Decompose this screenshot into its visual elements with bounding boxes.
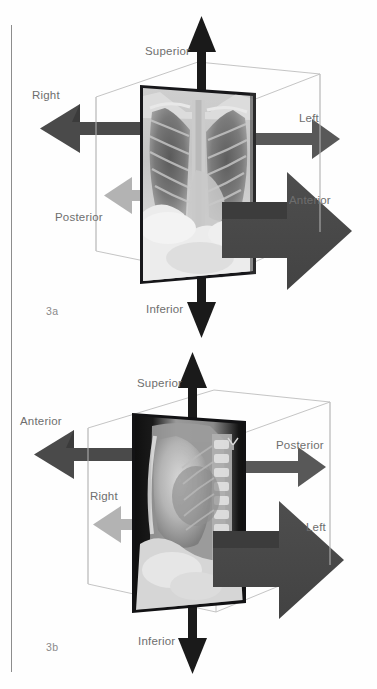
arrow-left-3a	[256, 119, 340, 159]
figure-number-3a: 3a	[46, 305, 58, 317]
label-posterior-3a: Posterior	[55, 211, 103, 223]
label-left-3a: Left	[299, 112, 319, 124]
label-right-3b: Right	[90, 490, 118, 502]
label-inferior-3b: Inferior	[138, 635, 175, 647]
label-anterior-3a: Anterior	[289, 194, 331, 206]
label-right-3a: Right	[32, 89, 60, 101]
panel-3b-stage: Superior Anterior Posterior Right Left I…	[0, 344, 377, 689]
label-posterior-3b: Posterior	[276, 439, 324, 451]
panel-3a-stage: Superior Right Left Posterior Anterior I…	[0, 0, 377, 345]
label-superior-3b: Superior	[137, 377, 182, 389]
label-anterior-3b: Anterior	[20, 415, 62, 427]
figure-panel-3a: Superior Right Left Posterior Anterior I…	[0, 0, 377, 345]
label-left-3b: Left	[306, 521, 326, 533]
panel-3b-graphic	[0, 344, 377, 689]
figure-panel-3b: Superior Anterior Posterior Right Left I…	[0, 344, 377, 689]
arrow-posterior-3b	[246, 447, 326, 487]
label-superior-3a: Superior	[145, 45, 190, 57]
label-inferior-3a: Inferior	[146, 303, 183, 315]
figure-number-3b: 3b	[46, 641, 58, 653]
